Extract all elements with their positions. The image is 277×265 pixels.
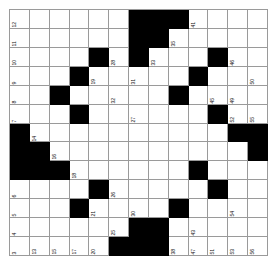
letter-cell[interactable]: 38: [169, 237, 189, 256]
letter-cell[interactable]: 4: [10, 218, 30, 237]
letter-cell[interactable]: 54: [228, 199, 248, 218]
letter-cell[interactable]: [149, 67, 169, 86]
letter-cell[interactable]: [228, 29, 248, 48]
letter-cell[interactable]: 45: [208, 86, 228, 105]
letter-cell[interactable]: [50, 180, 70, 199]
letter-cell[interactable]: [109, 142, 129, 161]
letter-cell[interactable]: [50, 105, 70, 124]
letter-cell[interactable]: [149, 199, 169, 218]
letter-cell[interactable]: [189, 48, 209, 67]
letter-cell[interactable]: [109, 124, 129, 143]
letter-cell[interactable]: [248, 180, 268, 199]
letter-cell[interactable]: 9: [10, 67, 30, 86]
letter-cell[interactable]: [109, 199, 129, 218]
letter-cell[interactable]: [70, 180, 90, 199]
letter-cell[interactable]: [129, 142, 149, 161]
letter-cell[interactable]: [169, 161, 189, 180]
letter-cell[interactable]: 31: [129, 67, 149, 86]
letter-cell[interactable]: [208, 10, 228, 29]
letter-cell[interactable]: [70, 218, 90, 237]
letter-cell[interactable]: [30, 29, 50, 48]
letter-cell[interactable]: 13: [30, 237, 50, 256]
letter-cell[interactable]: [109, 29, 129, 48]
letter-cell[interactable]: 8: [10, 86, 30, 105]
letter-cell[interactable]: [208, 29, 228, 48]
letter-cell[interactable]: [109, 10, 129, 29]
letter-cell[interactable]: [208, 124, 228, 143]
letter-cell[interactable]: 52: [228, 105, 248, 124]
letter-cell[interactable]: 17: [70, 237, 90, 256]
letter-cell[interactable]: 47: [189, 237, 209, 256]
letter-cell[interactable]: [109, 105, 129, 124]
letter-cell[interactable]: [89, 105, 109, 124]
letter-cell[interactable]: 12: [10, 10, 30, 29]
letter-cell[interactable]: [248, 86, 268, 105]
letter-cell[interactable]: [30, 48, 50, 67]
letter-cell[interactable]: [149, 142, 169, 161]
letter-cell[interactable]: [70, 142, 90, 161]
letter-cell[interactable]: [169, 142, 189, 161]
letter-cell[interactable]: 43: [189, 218, 209, 237]
letter-cell[interactable]: 51: [208, 237, 228, 256]
letter-cell[interactable]: [50, 199, 70, 218]
letter-cell[interactable]: [30, 180, 50, 199]
letter-cell[interactable]: [208, 199, 228, 218]
letter-cell[interactable]: [70, 29, 90, 48]
letter-cell[interactable]: [248, 29, 268, 48]
letter-cell[interactable]: 16: [50, 142, 70, 161]
letter-cell[interactable]: 19: [89, 67, 109, 86]
letter-cell[interactable]: [149, 180, 169, 199]
letter-cell[interactable]: [70, 86, 90, 105]
letter-cell[interactable]: [169, 218, 189, 237]
letter-cell[interactable]: 26: [109, 180, 129, 199]
letter-cell[interactable]: 11: [10, 29, 30, 48]
letter-cell[interactable]: [30, 199, 50, 218]
letter-cell[interactable]: [70, 48, 90, 67]
letter-cell[interactable]: [189, 180, 209, 199]
letter-cell[interactable]: [169, 124, 189, 143]
letter-cell[interactable]: 18: [70, 161, 90, 180]
letter-cell[interactable]: [248, 48, 268, 67]
letter-cell[interactable]: [50, 10, 70, 29]
letter-cell[interactable]: [70, 10, 90, 29]
letter-cell[interactable]: [109, 161, 129, 180]
letter-cell[interactable]: [30, 105, 50, 124]
letter-cell[interactable]: [30, 67, 50, 86]
letter-cell[interactable]: [169, 67, 189, 86]
letter-cell[interactable]: 49: [228, 86, 248, 105]
letter-cell[interactable]: [228, 67, 248, 86]
letter-cell[interactable]: [30, 218, 50, 237]
letter-cell[interactable]: [208, 161, 228, 180]
letter-cell[interactable]: [189, 29, 209, 48]
letter-cell[interactable]: [208, 218, 228, 237]
letter-cell[interactable]: [89, 86, 109, 105]
letter-cell[interactable]: [149, 161, 169, 180]
letter-cell[interactable]: [89, 29, 109, 48]
letter-cell[interactable]: [70, 124, 90, 143]
letter-cell[interactable]: 35: [169, 29, 189, 48]
letter-cell[interactable]: 7: [10, 105, 30, 124]
letter-cell[interactable]: 55: [248, 105, 268, 124]
letter-cell[interactable]: [248, 10, 268, 29]
letter-cell[interactable]: [169, 48, 189, 67]
letter-cell[interactable]: [50, 124, 70, 143]
letter-cell[interactable]: 46: [228, 48, 248, 67]
letter-cell[interactable]: [189, 142, 209, 161]
letter-cell[interactable]: [228, 10, 248, 29]
letter-cell[interactable]: [189, 124, 209, 143]
letter-cell[interactable]: [149, 124, 169, 143]
letter-cell[interactable]: [228, 180, 248, 199]
letter-cell[interactable]: 56: [248, 237, 268, 256]
letter-cell[interactable]: [89, 142, 109, 161]
letter-cell[interactable]: [50, 48, 70, 67]
letter-cell[interactable]: 33: [149, 48, 169, 67]
letter-cell[interactable]: [208, 142, 228, 161]
letter-cell[interactable]: 50: [248, 67, 268, 86]
letter-cell[interactable]: 14: [30, 124, 50, 143]
letter-cell[interactable]: 27: [129, 105, 149, 124]
letter-cell[interactable]: [30, 10, 50, 29]
letter-cell[interactable]: 10: [10, 48, 30, 67]
letter-cell[interactable]: [189, 105, 209, 124]
letter-cell[interactable]: 6: [10, 180, 30, 199]
letter-cell[interactable]: [30, 86, 50, 105]
